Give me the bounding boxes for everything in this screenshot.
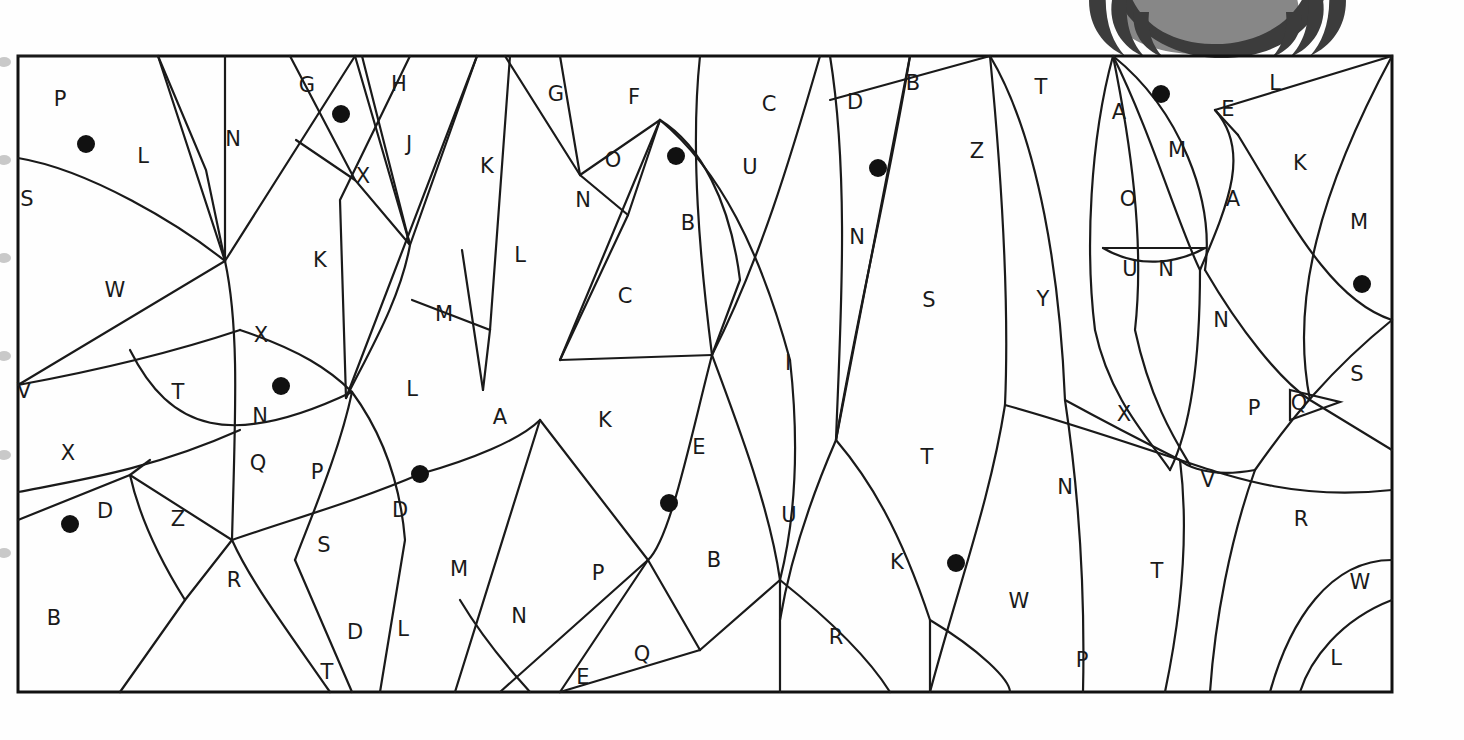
region-letter: M xyxy=(450,557,468,581)
region-letter: L xyxy=(397,617,409,641)
region-letter: R xyxy=(227,568,242,592)
region-letter: P xyxy=(1248,396,1261,420)
region-boundary xyxy=(830,56,842,440)
puzzle-line-art: PLNGHJXKGFONCUBDBZNTAMELKAMOSWKLMCSYUNNX… xyxy=(0,0,1464,740)
region-letter: Z xyxy=(171,507,185,531)
region-boundary xyxy=(18,158,225,261)
region-letter: N xyxy=(1158,257,1174,281)
region-letter: M xyxy=(1168,138,1186,162)
region-letter: T xyxy=(171,380,185,404)
region-letter: B xyxy=(906,71,920,95)
region-letter: S xyxy=(317,533,330,557)
region-letter: K xyxy=(890,550,905,574)
region-letter: A xyxy=(1112,100,1127,124)
region-letter: B xyxy=(47,606,61,630)
region-letter: U xyxy=(742,155,757,179)
region-letter: E xyxy=(692,435,705,459)
region-letter: X xyxy=(1117,402,1131,426)
region-letter: I xyxy=(785,351,791,375)
color-marker-dot xyxy=(272,377,290,395)
region-letter: S xyxy=(922,288,935,312)
region-letter: R xyxy=(829,625,844,649)
region-letter: E xyxy=(1221,97,1234,121)
color-marker-dot xyxy=(411,465,429,483)
region-boundary xyxy=(700,580,780,650)
region-boundary xyxy=(1300,600,1392,692)
region-boundary xyxy=(346,56,477,398)
region-letter: D xyxy=(392,498,408,522)
region-letter: W xyxy=(105,278,126,302)
region-letter: T xyxy=(920,445,934,469)
region-boundary xyxy=(1103,248,1205,262)
region-letter: Y xyxy=(1036,287,1050,311)
region-letter: K xyxy=(1293,151,1308,175)
region-boundary xyxy=(225,56,355,261)
region-letter: K xyxy=(598,408,613,432)
region-letter: N xyxy=(849,225,865,249)
region-letter: C xyxy=(762,92,777,116)
region-boundary xyxy=(455,420,540,692)
region-boundary xyxy=(1210,470,1255,692)
region-letter: A xyxy=(1226,187,1241,211)
region-letter: V xyxy=(1201,468,1216,492)
region-boundary xyxy=(1304,56,1392,400)
region-boundary xyxy=(990,56,1065,400)
region-letter: W xyxy=(1350,570,1371,594)
region-boundary xyxy=(490,56,510,330)
region-letter: W xyxy=(1009,589,1030,613)
region-letter: P xyxy=(54,87,67,111)
color-marker-dot xyxy=(947,554,965,572)
region-boundary xyxy=(712,355,780,580)
region-letter: L xyxy=(1330,646,1342,670)
region-letter: S xyxy=(1350,362,1363,386)
region-letter: Q xyxy=(1291,391,1308,415)
region-letter: N xyxy=(575,188,591,212)
region-letter: B xyxy=(681,211,695,235)
color-marker-dot xyxy=(77,135,95,153)
region-boundary xyxy=(1270,560,1392,692)
region-boundary xyxy=(930,620,1010,692)
color-marker-dot xyxy=(1152,85,1170,103)
region-boundary xyxy=(540,420,648,560)
region-boundary xyxy=(836,440,930,620)
region-letter: U xyxy=(781,503,796,527)
region-letter: L xyxy=(406,377,418,401)
color-marker-dot xyxy=(667,147,685,165)
region-boundary xyxy=(380,540,405,692)
region-boundary xyxy=(1215,56,1392,110)
region-letter: O xyxy=(605,148,622,172)
region-boundary xyxy=(712,280,740,355)
region-letter: K xyxy=(313,248,328,272)
region-letter: M xyxy=(1350,210,1368,234)
region-letter: T xyxy=(1034,75,1048,99)
color-marker-dot xyxy=(332,105,350,123)
region-letter: D xyxy=(347,620,363,644)
region-boundary xyxy=(1180,460,1255,473)
region-letter: P xyxy=(311,460,324,484)
region-letter: L xyxy=(514,243,526,267)
region-letter: G xyxy=(299,73,315,97)
region-boundary xyxy=(1205,270,1310,400)
region-letter: M xyxy=(435,302,453,326)
region-letter: N xyxy=(511,604,527,628)
region-boundary xyxy=(18,475,232,540)
region-letter: N xyxy=(1057,475,1073,499)
region-boundary xyxy=(18,330,240,385)
region-letter: L xyxy=(137,144,149,168)
region-boundary xyxy=(780,360,795,580)
region-letter: X xyxy=(254,323,268,347)
region-letter: N xyxy=(225,127,241,151)
region-letter: L xyxy=(1269,71,1281,95)
region-letter: J xyxy=(404,132,412,156)
region-letter: F xyxy=(628,85,640,109)
region-boundary xyxy=(560,355,712,360)
region-letters: PLNGHJXKGFONCUBDBZNTAMELKAMOSWKLMCSYUNNX… xyxy=(17,71,1371,689)
region-letter: P xyxy=(592,561,605,585)
region-letter: D xyxy=(847,90,863,114)
region-letter: X xyxy=(61,441,75,465)
puzzle-page: PLNGHJXKGFONCUBDBZNTAMELKAMOSWKLMCSYUNNX… xyxy=(0,0,1464,740)
region-letter: A xyxy=(493,405,508,429)
region-boundary xyxy=(1165,460,1184,692)
region-boundary xyxy=(990,56,1006,405)
region-letter: D xyxy=(97,499,113,523)
